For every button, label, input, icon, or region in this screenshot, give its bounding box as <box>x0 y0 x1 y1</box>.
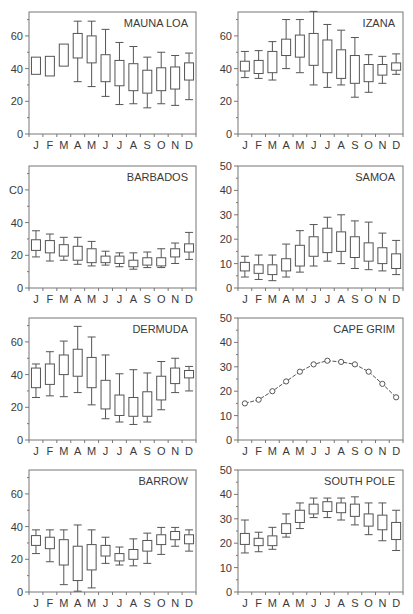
x-tick-label: M <box>295 597 304 609</box>
box-S <box>143 373 152 422</box>
x-tick-label: J <box>325 445 331 457</box>
x-tick-label: J <box>33 293 39 305</box>
data-point <box>311 362 316 367</box>
x-tick-label: A <box>337 293 345 305</box>
x-tick-label: N <box>171 293 179 305</box>
box-S <box>143 533 152 563</box>
panel-izana: 0204060JFMAMJJASONDIZANA <box>220 11 403 151</box>
panel-title: MAUNA LOA <box>124 17 189 29</box>
y-tick-label: C0 <box>9 184 23 196</box>
y-tick-label: 0 <box>17 282 23 294</box>
x-tick-label: A <box>74 293 82 305</box>
box-M <box>87 241 96 266</box>
y-tick-label: 0 <box>226 434 232 446</box>
box-J <box>309 11 318 85</box>
x-tick-label: J <box>242 597 248 609</box>
box-A <box>129 253 138 269</box>
y-tick-label: 40 <box>220 184 232 196</box>
x-tick-label: A <box>282 597 290 609</box>
x-tick-label: N <box>378 139 386 151</box>
box-J <box>101 355 110 419</box>
x-tick-label: F <box>47 597 54 609</box>
box-J <box>31 231 40 257</box>
x-tick-label: A <box>337 597 345 609</box>
plot-frame <box>29 470 196 592</box>
x-tick-label: S <box>351 139 358 151</box>
box-J <box>101 537 110 563</box>
box-F <box>254 532 263 552</box>
y-tick-label: 50 <box>220 160 232 172</box>
y-tick-label: 50 <box>220 312 232 324</box>
box-M <box>87 337 96 405</box>
box-J <box>115 253 124 267</box>
box-S <box>143 57 152 108</box>
x-tick-label: S <box>144 445 151 457</box>
box-J <box>240 520 249 553</box>
x-tick-label: A <box>282 139 290 151</box>
box-O <box>157 249 166 268</box>
box-M <box>268 255 277 281</box>
box-D <box>392 510 401 550</box>
x-tick-label: J <box>311 445 317 457</box>
y-tick-label: 60 <box>11 488 23 500</box>
x-tick-label: S <box>144 293 151 305</box>
x-tick-label: N <box>378 293 386 305</box>
x-tick-label: D <box>185 597 193 609</box>
data-point <box>366 369 371 374</box>
y-tick-label: 0 <box>226 128 232 140</box>
x-tick-label: M <box>295 445 304 457</box>
box-A <box>129 539 138 566</box>
x-tick-label: J <box>117 293 123 305</box>
box-D <box>392 240 401 274</box>
y-tick-label: 50 <box>220 464 232 476</box>
box-O <box>157 52 166 104</box>
box-D <box>185 232 194 259</box>
box-A <box>73 21 82 81</box>
box-D <box>392 54 401 74</box>
box-J <box>323 24 332 87</box>
box-A <box>337 215 346 264</box>
x-tick-label: N <box>171 445 179 457</box>
x-tick-label: M <box>268 139 277 151</box>
box-M <box>59 44 68 66</box>
box-J <box>115 42 124 104</box>
x-tick-label: J <box>33 597 39 609</box>
data-point <box>256 397 261 402</box>
box-M <box>268 42 277 80</box>
y-tick-label: 20 <box>220 385 232 397</box>
data-point <box>270 389 275 394</box>
data-point <box>325 358 330 363</box>
y-tick-label: 10 <box>220 258 232 270</box>
y-tick-label: 30 <box>220 209 232 221</box>
box-F <box>45 234 54 261</box>
box-N <box>378 233 387 271</box>
y-tick-label: 40 <box>11 521 23 533</box>
x-tick-label: A <box>282 293 290 305</box>
box-F <box>254 51 263 79</box>
x-tick-label: A <box>130 597 138 609</box>
box-F <box>45 56 54 76</box>
x-tick-label: O <box>364 293 373 305</box>
x-tick-label: N <box>378 445 386 457</box>
box-M <box>59 530 68 585</box>
y-tick-label: 30 <box>220 513 232 525</box>
box-J <box>31 57 40 74</box>
x-tick-label: A <box>130 293 138 305</box>
box-J <box>101 251 110 265</box>
box-M <box>87 530 96 588</box>
box-O <box>364 503 373 535</box>
box-A <box>73 237 82 264</box>
series-line <box>245 361 396 404</box>
data-point <box>394 395 399 400</box>
x-tick-label: S <box>351 293 358 305</box>
data-point <box>297 369 302 374</box>
x-tick-label: J <box>242 139 248 151</box>
y-tick-label: 60 <box>11 30 23 42</box>
box-A <box>129 370 138 425</box>
plot-frame <box>238 318 403 440</box>
box-O <box>157 527 166 554</box>
box-N <box>171 358 180 392</box>
x-tick-label: O <box>364 597 373 609</box>
box-D <box>185 366 194 391</box>
x-tick-label: F <box>47 139 54 151</box>
